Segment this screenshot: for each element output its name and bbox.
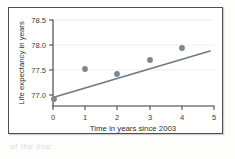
x-tick-labels: 0 1 2 3 4 5 (51, 113, 216, 122)
figure-page: 78.5 78.0 77.5 77.0 0 1 2 3 4 (0, 0, 235, 159)
data-point-3 (147, 57, 153, 63)
x-tick-label-5: 5 (212, 113, 216, 122)
y-tick-label-1: 77.5 (31, 66, 46, 75)
x-tick-label-1: 1 (83, 113, 87, 122)
line-of-best-fit (53, 51, 210, 98)
data-point-2 (114, 71, 120, 77)
y-tick-marks (49, 20, 53, 95)
page-text-bleed: of the line (10, 142, 225, 154)
data-point-0 (51, 96, 57, 102)
y-tick-label-0: 77.0 (31, 91, 46, 100)
chart-figure-frame: 78.5 78.0 77.5 77.0 0 1 2 3 4 (8, 7, 223, 134)
y-axis-title: Life expectancy in years (17, 21, 26, 105)
x-tick-label-0: 0 (51, 113, 55, 122)
y-tick-label-2: 78.0 (31, 41, 46, 50)
y-tick-label-3: 78.5 (31, 16, 46, 25)
x-axis-title: Time in years since 2003 (90, 124, 176, 133)
y-tick-labels: 78.5 78.0 77.5 77.0 (31, 16, 46, 100)
scatter-chart: 78.5 78.0 77.5 77.0 0 1 2 3 4 (9, 8, 222, 133)
data-point-4 (179, 45, 185, 51)
x-tick-label-2: 2 (115, 113, 119, 122)
x-tick-label-4: 4 (180, 113, 184, 122)
data-points (51, 45, 185, 102)
data-point-1 (82, 66, 88, 72)
gridlines (53, 20, 214, 70)
axes (53, 20, 214, 106)
x-tick-marks (53, 106, 214, 110)
x-tick-label-3: 3 (148, 113, 152, 122)
